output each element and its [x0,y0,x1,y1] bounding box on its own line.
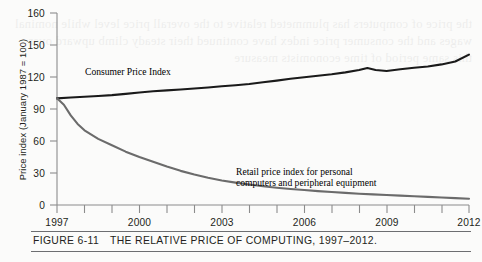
y-axis: 160 150 120 90 60 30 0 [27,8,57,211]
caption-line: FIGURE 6-11THE RELATIVE PRICE OF COMPUTI… [33,235,377,246]
x-axis-ticks [57,205,469,213]
x-tick-label-2012: 2012 [457,217,481,228]
y-axis-ticks [50,13,57,205]
price-index-line-chart: 160 150 120 90 60 30 0 [0,0,482,232]
y-axis-title: Price index (January 1987 = 100) [17,20,28,200]
series-annotation-computer-line2: computers and peripheral equipment [236,177,377,188]
caption-rule-bottom [31,251,471,252]
y-tick-label-30: 30 [33,168,45,179]
y-tick-label-60: 60 [33,136,45,147]
x-tick-label-1997: 1997 [45,217,69,228]
chart-plot-area: Price index (January 1987 = 100) 160 150… [0,0,482,232]
x-tick-label-2006: 2006 [293,217,317,228]
x-tick-label-2000: 2000 [128,217,152,228]
x-tick-label-2009: 2009 [375,217,399,228]
caption-rule-top [31,231,471,232]
figure-number: FIGURE 6-11 [33,235,99,246]
x-axis: 1997 2000 2003 2006 2009 2012 [45,205,481,228]
y-tick-label-0: 0 [39,200,45,211]
y-tick-label-120: 120 [27,72,45,83]
figure-title: THE RELATIVE PRICE OF COMPUTING, 1997–20… [110,235,377,246]
y-tick-label-160: 160 [27,8,45,19]
series-annotation-computer-line1: Retail price index for personal [236,166,353,177]
y-tick-label-150: 150 [27,40,45,51]
series-annotation-cpi: Consumer Price Index [85,66,171,77]
x-tick-label-2003: 2003 [210,217,234,228]
figure-caption: FIGURE 6-11THE RELATIVE PRICE OF COMPUTI… [0,231,482,262]
figure-page: the price of computers has plummeted rel… [0,0,482,262]
y-tick-label-90: 90 [33,104,45,115]
